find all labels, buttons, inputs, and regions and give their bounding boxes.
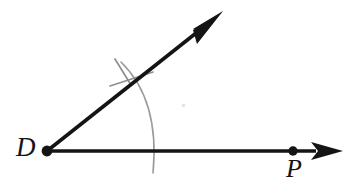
paper-speck (182, 104, 185, 107)
geometry-canvas (0, 0, 357, 195)
vertex-label-D: D (16, 134, 36, 161)
point-label-P: P (286, 156, 302, 182)
geometry-figure: D P (0, 0, 357, 195)
ray-upper (47, 11, 223, 151)
vertex-dot-D (42, 146, 53, 157)
